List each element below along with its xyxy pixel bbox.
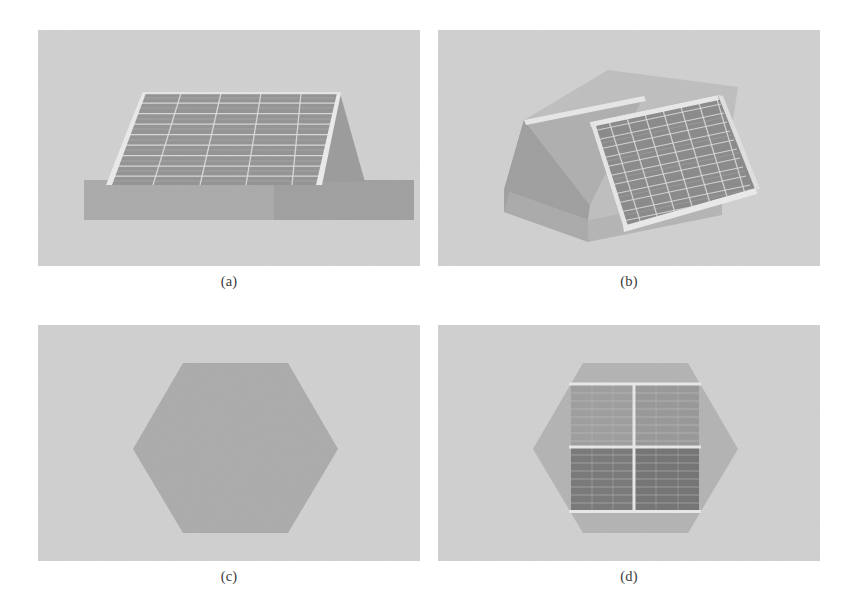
- panel-a-noise-overlay: [38, 30, 420, 266]
- render-panel-c: [38, 325, 420, 561]
- panel-c-noise-overlay: [38, 325, 420, 561]
- caption-d: (d): [438, 568, 820, 585]
- panel-b-noise-overlay: [438, 30, 820, 266]
- render-panel-a: [38, 30, 420, 266]
- subfigure-b: (b): [438, 30, 820, 302]
- panel-d-noise-overlay: [438, 325, 820, 561]
- render-panel-d: [438, 325, 820, 561]
- caption-c: (c): [38, 568, 420, 585]
- subfigure-c: (c): [38, 325, 420, 597]
- caption-b: (b): [438, 273, 820, 290]
- caption-a: (a): [38, 273, 420, 290]
- subfigure-d: (d): [438, 325, 820, 597]
- subfigure-a: (a): [38, 30, 420, 302]
- render-panel-b: [438, 30, 820, 266]
- figure-grid: (a): [0, 0, 860, 610]
